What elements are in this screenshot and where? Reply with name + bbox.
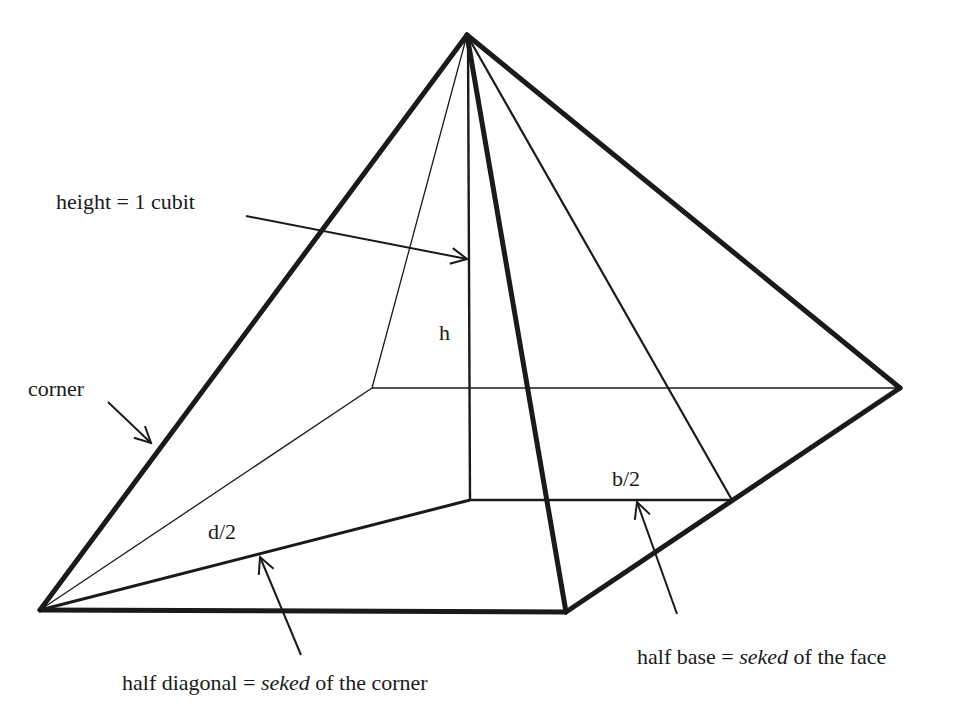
annotation-arrows	[108, 216, 677, 655]
edge-apex-back-corner	[372, 35, 467, 388]
half-base-suffix: of the face	[788, 644, 886, 669]
edge-back-left	[40, 388, 372, 610]
pyramid-diagram	[0, 0, 970, 717]
half-diagonal-suffix: of the corner	[310, 670, 428, 695]
corner-arrow	[108, 402, 151, 443]
half-diagonal-line	[40, 500, 470, 610]
edge-base-front	[40, 610, 566, 612]
half-base-caption: half base = seked of the face	[637, 646, 886, 668]
height-arrow	[246, 216, 467, 259]
half-diagonal-term: seked	[261, 670, 310, 695]
edge-apex-right	[467, 35, 900, 388]
half-diagonal-prefix: half diagonal =	[122, 670, 261, 695]
half-diagonal-caption: half diagonal = seked of the corner	[122, 672, 428, 694]
half-base-prefix: half base =	[637, 644, 739, 669]
d-half-label: d/2	[208, 521, 236, 543]
b-half-label: b/2	[612, 468, 640, 490]
edge-apex-front-left	[40, 35, 467, 610]
half-diagonal-arrow	[260, 557, 301, 655]
height-line	[468, 38, 470, 500]
half-base-term: seked	[739, 644, 788, 669]
corner-label: corner	[28, 378, 84, 400]
height-label: height = 1 cubit	[56, 191, 195, 213]
h-label: h	[439, 322, 450, 344]
internal-lines	[40, 35, 900, 610]
